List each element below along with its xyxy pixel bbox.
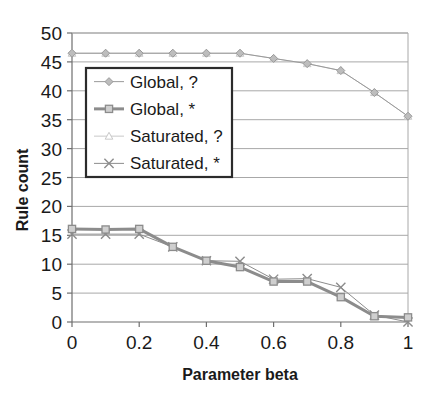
legend-item-label: Saturated, ? (130, 127, 223, 146)
data-point-square (236, 263, 243, 270)
x-tick-label: 0.8 (328, 332, 354, 353)
x-tick-label: 0.6 (260, 332, 286, 353)
x-tick-label: 0.4 (193, 332, 220, 353)
y-tick-label: 45 (41, 52, 62, 73)
data-point-square (304, 278, 311, 285)
y-tick-label: 5 (51, 283, 62, 304)
y-tick-label: 15 (41, 225, 62, 246)
y-tick-label: 40 (41, 81, 62, 102)
data-point-square (270, 278, 277, 285)
legend-item-label: Global, * (130, 100, 196, 119)
legend-item-label: Saturated, * (130, 154, 220, 173)
data-point-square (203, 257, 210, 264)
data-point-square (136, 225, 143, 232)
y-tick-label: 0 (51, 312, 62, 333)
data-point-square (404, 314, 411, 321)
x-tick-label: 0.2 (126, 332, 152, 353)
data-point-square (68, 225, 75, 232)
line-chart: 05101520253035404550 00.20.40.60.81 Para… (0, 0, 431, 401)
legend-item-label: Global, ? (130, 73, 198, 92)
data-point-square (102, 226, 109, 233)
x-axis-title: Parameter beta (182, 366, 298, 383)
y-tick-label: 50 (41, 23, 62, 44)
x-tick-label: 0 (67, 332, 78, 353)
chart-legend: Global, ?Global, *Saturated, ?Saturated,… (86, 68, 232, 177)
x-tick-label: 1 (403, 332, 414, 353)
y-tick-label: 20 (41, 196, 62, 217)
data-point-square (169, 243, 176, 250)
data-point-square (371, 313, 378, 320)
y-axis-title: Rule count (14, 148, 31, 231)
y-tick-label: 35 (41, 110, 62, 131)
y-tick-label: 25 (41, 168, 62, 189)
y-tick-label: 30 (41, 139, 62, 160)
data-point-square (337, 294, 344, 301)
y-tick-label: 10 (41, 254, 62, 275)
chart-figure: 05101520253035404550 00.20.40.60.81 Para… (0, 0, 431, 401)
data-point-square (105, 105, 112, 112)
